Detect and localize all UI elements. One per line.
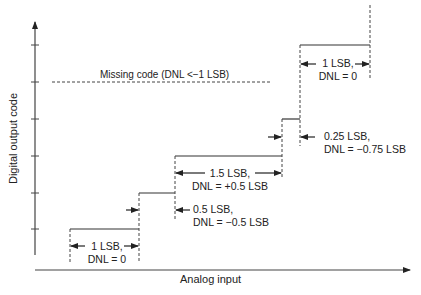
annotation-step1: 1 LSB, DNL = 0 <box>80 240 134 266</box>
annotation-step4-line1: 0.25 LSB, <box>324 130 406 143</box>
y-axis-label: Digital output code <box>7 84 20 194</box>
annotation-step2-line2: DNL = −0.5 LSB <box>193 216 269 229</box>
annotation-step4-line2: DNL = −0.75 LSB <box>324 143 406 156</box>
y-axis <box>31 22 39 255</box>
x-axis-label: Analog input <box>180 273 241 286</box>
annotation-step3-line1: 1.5 LSB, <box>190 167 270 180</box>
annotation-step1-line1: 1 LSB, <box>80 240 134 253</box>
annotation-step2-line1: 0.5 LSB, <box>193 203 269 216</box>
missing-code-label: Missing code (DNL <−1 LSB) <box>100 68 229 81</box>
annotation-step5-line1: 1 LSB, <box>311 57 365 70</box>
annotation-step1-line2: DNL = 0 <box>80 253 134 266</box>
annotation-step2: 0.5 LSB, DNL = −0.5 LSB <box>193 203 269 229</box>
annotation-step4: 0.25 LSB, DNL = −0.75 LSB <box>324 130 406 156</box>
annotation-step3: 1.5 LSB, DNL = +0.5 LSB <box>190 167 270 193</box>
annotation-step5: 1 LSB, DNL = 0 <box>311 57 365 83</box>
annotation-step3-line2: DNL = +0.5 LSB <box>190 180 270 193</box>
annotation-step5-line2: DNL = 0 <box>311 70 365 83</box>
